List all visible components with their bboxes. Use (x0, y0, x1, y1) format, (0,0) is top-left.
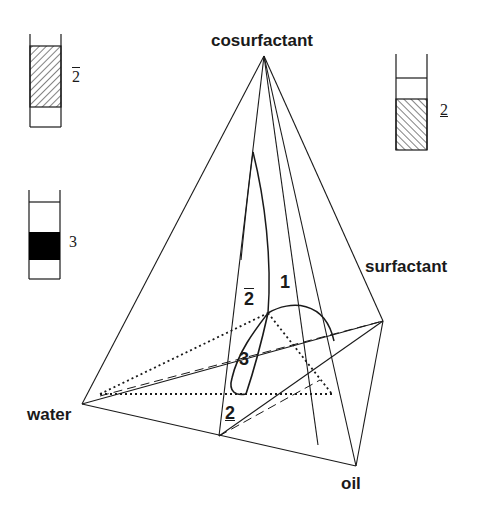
binodal-curve-left (241, 152, 253, 260)
label-water: water (27, 405, 71, 425)
dashed-lines (100, 321, 383, 436)
tube-3-icon (29, 190, 60, 279)
label-oil: oil (341, 474, 361, 494)
tube-label-2under: 2 (440, 101, 448, 119)
tube-label-2bar: 2 (72, 68, 80, 86)
region-label-2under: 2 (225, 403, 235, 424)
tube-2bar-icon (30, 34, 61, 127)
region-label-2bar: 2 (244, 289, 254, 310)
region-label-3: 3 (239, 349, 249, 370)
dotted-triangle (100, 313, 332, 394)
label-cosurfactant: cosurfactant (211, 31, 313, 51)
binodal-curve-upper (253, 152, 269, 313)
tube-2under-icon (396, 54, 427, 150)
tube-label-3: 3 (69, 233, 77, 251)
region-label-1: 1 (280, 272, 290, 293)
label-surfactant: surfactant (365, 257, 447, 277)
